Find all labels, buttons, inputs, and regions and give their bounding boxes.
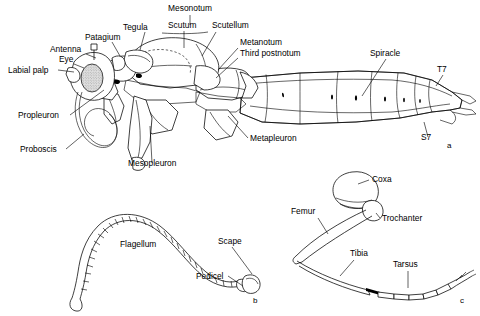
spiracle-mark [419, 99, 421, 103]
spiracle-mark [331, 95, 333, 100]
spiracle-mark [355, 95, 357, 101]
panel-letter-b: b [253, 296, 258, 305]
label-proboscis: Proboscis [20, 144, 57, 154]
label-patagium: Patagium [85, 32, 120, 42]
label-tibia: Tibia [350, 248, 368, 258]
scape-shape [242, 275, 260, 294]
spiracle-mark [403, 98, 405, 103]
label-metapleuron: Metapleuron [250, 133, 297, 143]
label-propleuron: Propleuron [18, 110, 59, 120]
label-trochanter: Trochanter [382, 213, 422, 223]
label-tarsus: Tarsus [393, 259, 418, 269]
spiracle-mark [384, 97, 386, 102]
panel-letter-c: c [460, 296, 464, 305]
label-coxa: Coxa [372, 174, 392, 184]
label-third-postnotum: Third postnotum [240, 48, 301, 58]
label-antenna: Antenna [50, 44, 82, 54]
panel-letter-a: a [447, 141, 452, 150]
label-mesonotum: Mesonotum [168, 3, 212, 13]
label-eye: Eye [59, 54, 74, 64]
label-metanotum: Metanotum [240, 37, 282, 47]
label-mesopleuron: Mesopleuron [128, 158, 177, 168]
label-spiracle: Spiracle [370, 48, 401, 58]
label-t7: T7 [437, 64, 447, 74]
label-scutellum: Scutellum [212, 20, 249, 30]
antenna-base [91, 44, 97, 50]
label-flagellum: Flagellum [120, 239, 156, 249]
label-tegula: Tegula [123, 22, 148, 32]
compound-eye [81, 64, 103, 92]
label-s7: S7 [421, 132, 432, 142]
label-pedicel: Pedicel [196, 271, 224, 281]
label-scape: Scape [218, 236, 242, 246]
label-labial-palp: Labial palp [8, 65, 49, 75]
insect-morphology-figure: Mesonotum Tegula Scutum Scutellum Patagi… [0, 0, 480, 316]
label-femur: Femur [291, 206, 315, 216]
label-scutum: Scutum [168, 20, 196, 30]
